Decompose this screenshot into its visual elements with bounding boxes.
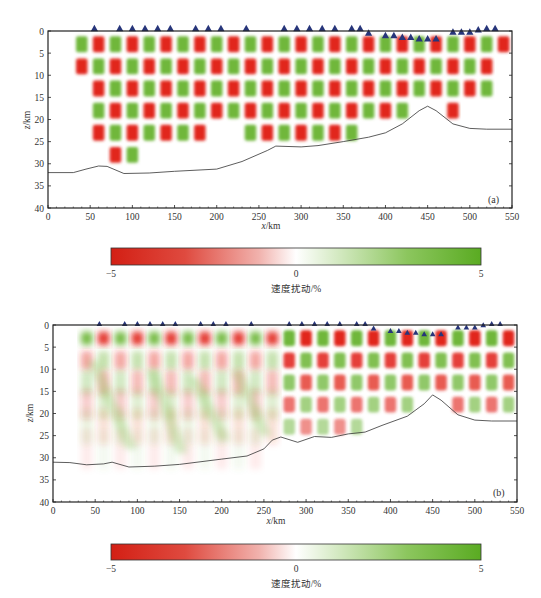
- cell-negative: [295, 81, 306, 97]
- cell-negative: [334, 419, 345, 435]
- cell-positive: [452, 330, 463, 346]
- station-triangle-icon: [348, 25, 355, 31]
- station-triangle-icon: [141, 25, 148, 31]
- cell-negative: [380, 58, 391, 74]
- cell-negative: [245, 58, 256, 74]
- cell-negative: [228, 36, 239, 52]
- cell-positive: [81, 332, 92, 345]
- cell-negative: [368, 330, 379, 346]
- cell-negative: [93, 36, 104, 52]
- x-tick-label: 550: [505, 212, 520, 222]
- cell-negative: [351, 352, 362, 368]
- cell-negative: [148, 428, 159, 469]
- x-tick-label: 250: [257, 506, 272, 516]
- cell-negative: [194, 81, 205, 97]
- cell-negative: [430, 81, 441, 97]
- station-triangle-icon: [390, 32, 397, 38]
- cell-positive: [160, 58, 171, 74]
- cell-positive: [278, 81, 289, 97]
- colorbar-gradient-a: [111, 248, 481, 265]
- x-tick-label: 450: [421, 212, 436, 222]
- cell-positive: [228, 58, 239, 74]
- cell-positive: [447, 36, 458, 52]
- cell-negative: [312, 58, 323, 74]
- cell-positive: [182, 332, 193, 345]
- cell-positive: [283, 330, 294, 346]
- plot-frame-a: [48, 31, 512, 208]
- y-tick-label: 30: [40, 453, 50, 463]
- cell-positive: [228, 103, 239, 119]
- cell-positive: [143, 125, 154, 141]
- station-triangle-icon: [91, 25, 98, 31]
- cell-positive: [211, 36, 222, 52]
- cell-negative: [93, 81, 104, 97]
- cell-positive: [312, 36, 323, 52]
- cell-negative: [469, 330, 480, 346]
- cell-positive: [216, 332, 227, 345]
- cell-positive: [250, 332, 261, 345]
- cell-positive: [413, 81, 424, 97]
- cell-negative: [127, 36, 138, 52]
- y-tick-label: 15: [40, 387, 50, 397]
- cell-negative: [469, 375, 480, 391]
- y-tick-label: 0: [44, 321, 49, 331]
- cell-negative: [98, 332, 109, 345]
- station-triangle-icon: [483, 25, 490, 31]
- cell-positive: [469, 352, 480, 368]
- cell-negative: [435, 375, 446, 391]
- x-tick-label: 500: [463, 212, 478, 222]
- cell-negative: [481, 58, 492, 74]
- x-tick-label: 350: [341, 506, 356, 516]
- station-triangle-icon: [116, 25, 123, 31]
- cell-positive: [127, 147, 138, 163]
- cell-positive: [245, 81, 256, 97]
- cell-negative: [295, 125, 306, 141]
- cell-negative: [283, 352, 294, 368]
- cell-negative: [143, 103, 154, 119]
- cell-positive: [385, 375, 396, 391]
- cell-negative: [334, 330, 345, 346]
- cell-positive: [115, 332, 126, 345]
- cell-positive: [317, 330, 328, 346]
- cell-positive: [317, 375, 328, 391]
- cell-positive: [397, 103, 408, 119]
- x-tick-label: 150: [172, 506, 187, 516]
- cell-negative: [278, 103, 289, 119]
- cell-positive: [76, 36, 87, 52]
- panel-label-a: (a): [488, 194, 499, 206]
- cell-negative: [317, 352, 328, 368]
- cell-negative: [110, 58, 121, 74]
- cell-negative: [127, 125, 138, 141]
- cell-positive: [211, 81, 222, 97]
- x-axis-label-b: x/km: [266, 516, 287, 526]
- station-triangle-icon: [293, 25, 300, 31]
- cell-negative: [194, 36, 205, 52]
- checkerboard-cells-b: [81, 330, 514, 469]
- cell-negative: [363, 81, 374, 97]
- colorbar-tick-max-a: 5: [479, 269, 484, 279]
- station-triangle-icon: [365, 29, 372, 35]
- cell-positive: [199, 428, 210, 469]
- y-tick-label: 10: [40, 365, 50, 375]
- cell-negative: [211, 103, 222, 119]
- y-axis-label-a: z/km: [22, 110, 32, 130]
- cell-negative: [81, 428, 92, 469]
- station-triangle-icon: [371, 325, 377, 330]
- cell-negative: [250, 428, 261, 469]
- cell-negative: [233, 332, 244, 345]
- station-triangle-icon: [382, 32, 389, 38]
- cell-negative: [216, 351, 227, 370]
- colorbar-tick-mid-a: 0: [294, 269, 299, 279]
- cell-positive: [295, 58, 306, 74]
- x-tick-label: 50: [85, 212, 95, 222]
- cell-negative: [143, 58, 154, 74]
- cell-negative: [385, 397, 396, 413]
- x-tick-label: 500: [468, 506, 483, 516]
- colorbar-label-a: 速度扰动/%: [271, 283, 322, 294]
- cell-positive: [267, 351, 278, 370]
- cell-negative: [160, 36, 171, 52]
- cell-positive: [148, 332, 159, 345]
- station-triangle-icon: [424, 35, 431, 41]
- cell-negative: [329, 125, 340, 141]
- cell-negative: [199, 332, 210, 345]
